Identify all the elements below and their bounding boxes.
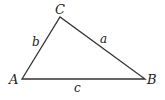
vertex-label-c: C xyxy=(55,2,65,17)
side-label-b: b xyxy=(32,35,40,49)
vertex-label-b: B xyxy=(146,72,157,87)
triangle-diagram: A B C a b c xyxy=(0,0,165,100)
side-label-c: c xyxy=(74,81,81,95)
side-label-a: a xyxy=(100,32,107,46)
vertex-label-a: A xyxy=(8,72,18,87)
triangle-abc xyxy=(22,17,145,79)
